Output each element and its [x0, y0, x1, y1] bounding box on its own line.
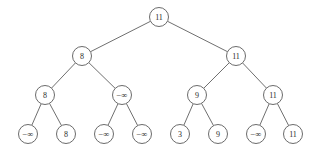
tree-edge	[167, 21, 227, 51]
tree-edge	[260, 104, 269, 126]
tree-node-label: 9	[195, 91, 199, 100]
tree-node-label: 11	[232, 52, 240, 61]
tree-node-label: 8	[43, 91, 47, 100]
tree-edge	[204, 63, 230, 89]
tree-node-label: −∞	[137, 129, 148, 139]
tree-edge	[184, 104, 193, 126]
tree-node[interactable]: 11	[150, 8, 169, 27]
tree-node-label: 11	[155, 13, 163, 22]
tree-node[interactable]: 9	[188, 86, 207, 105]
tree-node-label: 11	[269, 91, 277, 100]
tree-edge	[108, 104, 118, 126]
tree-node[interactable]: 9	[209, 125, 228, 144]
edge-layer	[32, 21, 289, 125]
tree-node-label: 9	[216, 130, 220, 139]
tree-node[interactable]: 11	[227, 47, 246, 66]
tree-node[interactable]: −∞	[113, 86, 132, 105]
tree-node[interactable]: 8	[57, 125, 76, 144]
tree-node-label: −∞	[117, 90, 128, 100]
tree-node[interactable]: 8	[36, 86, 55, 105]
tree-node[interactable]: 3	[171, 125, 190, 144]
tree-node[interactable]: −∞	[95, 125, 114, 144]
tree-node[interactable]: 8	[73, 47, 92, 66]
tree-edge	[243, 63, 267, 88]
node-layer: 118118−∞911−∞8−∞−∞39−∞11	[19, 8, 303, 144]
tree-node-label: −∞	[99, 129, 110, 139]
tree-node[interactable]: 11	[284, 125, 303, 144]
tree-node-label: −∞	[251, 129, 262, 139]
tree-edge	[50, 103, 62, 125]
tree-canvas: 118118−∞911−∞8−∞−∞39−∞11	[0, 0, 317, 158]
tree-node[interactable]: −∞	[247, 125, 266, 144]
tree-node-label: 3	[178, 130, 182, 139]
tree-node-label: 11	[289, 130, 297, 139]
tree-node[interactable]: −∞	[19, 125, 38, 144]
tree-edge	[202, 103, 214, 125]
tree-edge	[277, 103, 288, 125]
tree-edge	[52, 63, 76, 88]
tree-node[interactable]: −∞	[133, 125, 152, 144]
tree-node-label: 8	[80, 52, 84, 61]
tree-node-label: 8	[64, 130, 68, 139]
tree-node[interactable]: 11	[264, 86, 283, 105]
tree-edge	[90, 21, 150, 51]
tree-edge	[126, 103, 137, 125]
binary-tree-figure: 118118−∞911−∞8−∞−∞39−∞11	[0, 0, 317, 158]
tree-edge	[89, 63, 115, 89]
tree-node-label: −∞	[23, 129, 34, 139]
tree-edge	[32, 104, 41, 126]
